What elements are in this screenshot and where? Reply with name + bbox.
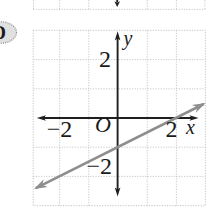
y-tick-neg2-label: −2 bbox=[86, 153, 112, 179]
x-tick-2-label: 2 bbox=[166, 116, 178, 142]
choice-letter: D bbox=[0, 22, 6, 43]
coordinate-grid: y x O 2 −2 −2 2 bbox=[32, 27, 207, 206]
answer-choice-bubble: D bbox=[0, 22, 17, 44]
y-axis-label: y bbox=[122, 27, 133, 50]
x-axis-label: x bbox=[185, 116, 195, 138]
y-tick-2-label: 2 bbox=[99, 46, 111, 72]
previous-figure-bottom-edge bbox=[33, 0, 205, 9]
previous-y-axis-down-arrow-icon bbox=[114, 0, 120, 7]
origin-label: O bbox=[95, 112, 111, 137]
x-tick-neg2-label: −2 bbox=[47, 116, 73, 142]
figure-canvas: D bbox=[0, 0, 209, 208]
textbook-figure: D bbox=[0, 0, 209, 208]
